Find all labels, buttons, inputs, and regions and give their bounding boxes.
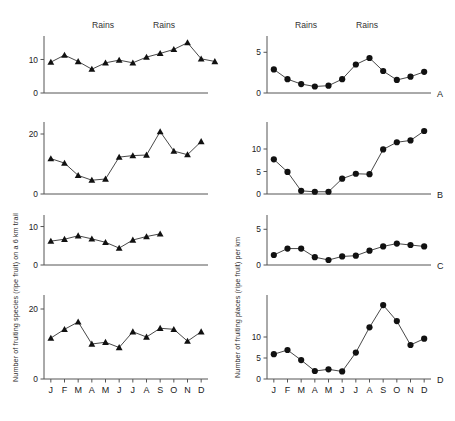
figure-container: Number of fruiting species (ripe fruit) … [0,0,455,421]
data-point [380,302,386,308]
y-tick-label: 0 [256,189,261,199]
y-tick-label: 0 [33,260,38,270]
x-tick-label-J: J [117,385,122,395]
y-tick-label: 0 [256,88,261,98]
data-point [380,68,386,74]
y-tick-label: 20 [29,304,39,314]
panel-c-right: 05C [256,215,444,271]
data-line [274,305,424,371]
data-point [157,128,164,134]
panel-letter-C: C [437,261,444,271]
panel-a-left: 010 [29,36,219,98]
panel-letter-B: B [437,190,443,200]
data-point [312,83,318,89]
data-point [284,347,290,353]
x-tick-label-J: J [272,385,277,395]
panel-b-right: 0510B [252,122,443,200]
data-point [75,232,82,238]
data-point [129,328,136,334]
data-line [51,322,201,348]
x-tick-label-F: F [285,385,291,395]
data-point [298,357,304,363]
data-point [312,368,318,374]
y-tick-label: 0 [33,189,38,199]
y-tick-label: 0 [33,88,38,98]
data-point [380,146,386,152]
x-tick-label-F: F [62,385,68,395]
data-point [47,59,54,65]
rains-label-left-2: Rains [153,20,175,30]
data-point [394,318,400,324]
data-point [366,324,372,330]
y-tick-label: 10 [29,55,39,65]
data-point [366,171,372,177]
rains-label-left-1: Rains [92,20,114,30]
data-point [421,69,427,75]
x-tick-label-A: A [366,385,372,395]
data-point [366,248,372,254]
x-tick-label-S: S [380,385,386,395]
data-point [271,252,277,258]
data-point [47,155,54,161]
data-point [298,245,304,251]
data-point [394,240,400,246]
x-tick-label-A: A [312,385,318,395]
panel-letter-D: D [437,375,444,385]
data-point [75,58,82,64]
data-point [298,188,304,194]
data-point [198,138,205,144]
data-point [353,61,359,67]
data-point [339,76,345,82]
data-point [339,368,345,374]
x-tick-label-M: M [102,385,110,395]
data-point [157,325,164,331]
x-tick-label-M: M [74,385,82,395]
x-tick-label-M: M [297,385,305,395]
data-point [339,253,345,259]
data-line [51,132,201,181]
data-point [325,83,331,89]
data-point [102,176,109,182]
data-point [61,326,68,332]
data-point [61,52,68,58]
data-point [271,351,277,357]
x-tick-label-D: D [198,385,205,395]
x-tick-label-A: A [89,385,95,395]
data-point [284,245,290,251]
y-tick-label: 0 [256,260,261,270]
data-point [325,189,331,195]
data-point [157,230,164,236]
plots-svg: 010020010020JFMAMJJASOND05A0510B05C0510J… [0,0,455,421]
data-point [407,74,413,80]
data-point [284,169,290,175]
data-point [407,242,413,248]
data-point [312,254,318,260]
right-y-axis-title: Number of fruiting places (ripe fruit) p… [233,237,242,378]
data-point [102,339,109,345]
y-tick-label: 5 [256,353,261,363]
data-line [274,58,424,86]
data-point [184,39,191,45]
data-point [353,171,359,177]
data-point [116,245,123,251]
data-line [274,244,424,260]
rains-label-right-1: Rains [295,20,317,30]
y-tick-label: 10 [252,332,262,342]
y-tick-label: 5 [256,224,261,234]
data-point [339,176,345,182]
panel-a-right: 05A [256,36,443,99]
data-point [143,334,150,340]
data-point [75,319,82,325]
y-tick-label: 0 [256,374,261,384]
panel-d-right: 0510JFMAMJJASONDD [252,295,444,395]
x-tick-label-J: J [354,385,359,395]
data-point [170,148,177,154]
data-point [325,366,331,372]
x-tick-label-D: D [421,385,428,395]
panel-c-left: 010 [29,215,208,270]
data-point [421,128,427,134]
x-tick-label-O: O [170,385,177,395]
x-tick-label-J: J [131,385,136,395]
x-tick-label-S: S [157,385,163,395]
y-tick-label: 20 [29,129,39,139]
